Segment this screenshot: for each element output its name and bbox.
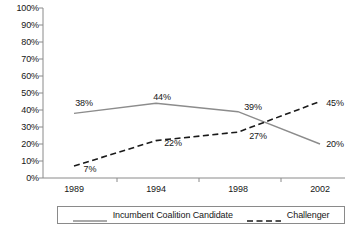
data-point-label-incumbent: 39% (244, 102, 262, 112)
y-axis-tick-label: 30% (3, 123, 39, 132)
y-axis-tick-label: 70% (3, 55, 39, 64)
y-axis-tick-label: 90% (3, 21, 39, 30)
legend-label: Incumbent Coalition Candidate (113, 210, 233, 220)
data-point-label-incumbent: 44% (153, 92, 171, 102)
data-point-label-challenger: 22% (164, 138, 182, 148)
data-point-label-challenger: 27% (249, 131, 267, 141)
y-axis-tick-label: 50% (3, 89, 39, 98)
dashed-line-icon (247, 211, 281, 219)
data-point-label-incumbent: 38% (75, 98, 93, 108)
y-axis-tick-label: 0% (3, 174, 39, 183)
y-axis-tick-label: 40% (3, 106, 39, 115)
data-point-label-challenger: 7% (84, 164, 97, 174)
line-chart: 100%90%80%70%60%50%40%30%20%10%0% 198919… (0, 0, 363, 229)
y-axis-tick-label: 100% (3, 4, 39, 13)
x-axis-tick-label: 2002 (310, 184, 330, 194)
y-axis-tick-label: 20% (3, 140, 39, 149)
legend-entry[interactable]: Challenger (247, 210, 330, 220)
series-line-incumbent-coalition-candidate (74, 103, 320, 144)
series-line-challenger (74, 102, 320, 167)
x-axis-ticks (117, 178, 281, 182)
chart-legend: Incumbent Coalition CandidateChallenger (57, 206, 345, 224)
data-point-label-incumbent: 20% (326, 139, 344, 149)
y-axis-tick-labels: 100%90%80%70%60%50%40%30%20%10%0% (0, 0, 39, 186)
solid-line-icon (73, 211, 107, 219)
y-axis-tick-label: 60% (3, 72, 39, 81)
y-axis-ticks (39, 8, 43, 178)
x-axis-tick-label: 1998 (228, 184, 248, 194)
y-axis-tick-label: 10% (3, 157, 39, 166)
x-axis-tick-label: 1994 (146, 184, 166, 194)
x-axis-tick-label: 1989 (64, 184, 84, 194)
y-axis-tick-label: 80% (3, 38, 39, 47)
chart-canvas (0, 0, 363, 200)
legend-entry[interactable]: Incumbent Coalition Candidate (73, 210, 233, 220)
data-point-label-challenger: 45% (326, 98, 344, 108)
legend-label: Challenger (287, 210, 330, 220)
x-axis-tick-labels: 1989199419982002 (0, 184, 363, 198)
